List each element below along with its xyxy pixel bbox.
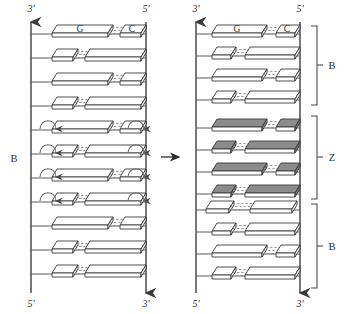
basepair-block-junction — [206, 201, 297, 213]
basepair-block — [212, 47, 300, 59]
bracket-label-b-bottom: B — [328, 241, 335, 252]
basepair-block: G C — [212, 24, 300, 38]
base-label-g: G — [77, 24, 84, 34]
basepair-block — [52, 169, 146, 181]
left-panel: G C — [10, 3, 150, 309]
base-label-c: C — [129, 24, 135, 34]
basepair-block — [52, 265, 146, 277]
left-panel-label-top-left: 3' — [26, 3, 35, 14]
bracket-label-b-top: B — [328, 60, 335, 71]
basepair-block — [52, 73, 146, 85]
left-panel-form-label-b: B — [10, 153, 17, 164]
base-label-g: G — [234, 24, 241, 34]
basepair-block — [212, 267, 300, 279]
basepair-block-shaded — [212, 119, 300, 131]
right-panel-label-bottom-left: 5' — [192, 298, 200, 309]
basepair-block — [212, 91, 300, 103]
basepair-block-shaded — [212, 185, 300, 197]
basepair-block: G C — [52, 24, 146, 38]
basepair-block — [212, 223, 300, 235]
right-panel-label-top-left: 3' — [191, 3, 200, 14]
basepair-block — [212, 245, 300, 257]
bracket-b-bottom — [311, 204, 317, 288]
bracket-b-top — [311, 26, 317, 105]
basepair-block — [212, 69, 300, 81]
basepair-block — [52, 241, 146, 253]
basepair-block — [52, 145, 146, 157]
base-label-c: C — [284, 24, 290, 34]
basepair-block — [52, 217, 146, 229]
right-panel-label-top-right: 5' — [296, 3, 304, 14]
basepair-block — [52, 97, 146, 109]
basepair-block-shaded — [212, 163, 300, 175]
basepair-block — [52, 121, 146, 133]
right-panel: G C — [191, 3, 335, 309]
basepair-block — [52, 193, 146, 205]
right-panel-basepairs: G C — [206, 24, 300, 280]
basepair-block-shaded — [212, 141, 300, 153]
dna-b-to-z-diagram: G C — [0, 0, 348, 314]
region-brackets — [311, 26, 323, 288]
figure-canvas: G C — [0, 0, 348, 314]
left-panel-label-top-right: 5' — [142, 3, 150, 14]
left-panel-label-bottom-right: 3' — [141, 298, 150, 309]
left-panel-basepairs: G C — [52, 24, 146, 278]
bracket-z — [311, 116, 317, 199]
bracket-label-z: Z — [329, 152, 335, 163]
basepair-block — [52, 49, 146, 61]
right-panel-label-bottom-right: 3' — [295, 298, 304, 309]
left-panel-label-bottom-left: 5' — [27, 298, 35, 309]
